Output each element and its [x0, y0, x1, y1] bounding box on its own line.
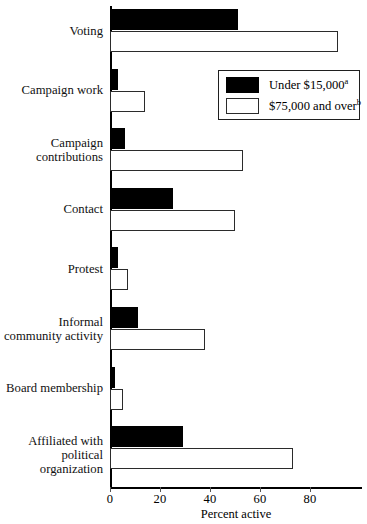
bar-dark	[110, 247, 118, 268]
category-label: Voting	[0, 24, 103, 38]
category-label: Campaign work	[0, 83, 103, 97]
category-label-line: Protest	[0, 262, 103, 276]
category-label-line: Campaign work	[0, 83, 103, 97]
legend-item-under-15000: Under $15,000a	[226, 76, 348, 94]
bar-chart: 020406080 Percent active VotingCampaign …	[0, 0, 367, 524]
x-tick-label-20: 20	[154, 492, 167, 507]
category-label-line: Informal	[0, 315, 103, 329]
bar-group: Contact	[0, 188, 367, 248]
category-label: Campaigncontributions	[0, 136, 103, 164]
x-tick-label-80: 80	[304, 492, 317, 507]
x-tick-label-60: 60	[254, 492, 267, 507]
bar-light	[110, 31, 338, 52]
category-label: Contact	[0, 202, 103, 216]
bar-dark	[110, 307, 138, 328]
x-tick-label-0: 0	[107, 492, 113, 507]
bar-dark	[110, 69, 118, 90]
category-label-line: Affiliated with	[0, 434, 103, 448]
category-label-line: political organization	[0, 448, 103, 476]
bar-dark	[110, 188, 173, 209]
bar-light	[110, 448, 293, 469]
category-label-line: contributions	[0, 150, 103, 164]
bar-dark	[110, 367, 115, 388]
bar-group: Board membership	[0, 367, 367, 427]
bar-light	[110, 210, 235, 231]
bar-dark	[110, 128, 125, 149]
category-label-line: Voting	[0, 24, 103, 38]
category-label: Affiliated withpolitical organization	[0, 434, 103, 476]
bar-dark	[110, 426, 183, 447]
legend-swatch-light	[226, 98, 259, 114]
bar-light	[110, 389, 123, 410]
bar-group: Affiliated withpolitical organization	[0, 426, 367, 486]
bar-dark	[110, 9, 238, 30]
category-label-line: Board membership	[0, 381, 103, 395]
category-label: Protest	[0, 262, 103, 276]
bar-group: Campaigncontributions	[0, 128, 367, 188]
bar-group: Informalcommunity activity	[0, 307, 367, 367]
legend-label-under-15000: Under $15,000a	[269, 78, 348, 93]
category-label: Board membership	[0, 381, 103, 395]
bar-light	[110, 269, 128, 290]
footnote-marker-a: a	[345, 75, 349, 85]
x-axis-line	[110, 487, 362, 489]
x-tick-label-40: 40	[204, 492, 217, 507]
bar-light	[110, 91, 145, 112]
legend-item-75000-and-over: $75,000 and overb	[226, 97, 361, 115]
category-label: Informalcommunity activity	[0, 315, 103, 343]
category-label-line: Contact	[0, 202, 103, 216]
bar-light	[110, 329, 205, 350]
x-axis-title: Percent active	[110, 507, 362, 522]
legend-label-75000-and-over: $75,000 and overb	[269, 99, 361, 114]
bar-group: Protest	[0, 247, 367, 307]
legend: Under $15,000a $75,000 and overb	[218, 70, 360, 120]
category-label-line: Campaign	[0, 136, 103, 150]
bar-light	[110, 150, 243, 171]
legend-swatch-dark	[226, 77, 259, 93]
category-label-line: community activity	[0, 329, 103, 343]
footnote-marker-b: b	[357, 96, 361, 106]
bar-group: Voting	[0, 9, 367, 69]
